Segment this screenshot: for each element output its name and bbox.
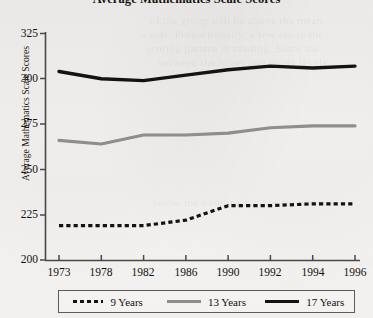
series-line-17-years — [59, 66, 355, 80]
legend-label-9-years: 9 Years — [110, 296, 142, 308]
chart-plot-area: Average Mathematics Scale Scores 325 300… — [0, 0, 373, 318]
chart-svg-canvas — [0, 0, 373, 318]
x-axis-ticks — [59, 255, 355, 260]
series-line-9-years — [59, 204, 355, 226]
legend-entry-9-years: 9 Years — [59, 296, 157, 308]
dashed-line-swatch-icon — [73, 300, 103, 303]
legend-label-17-years: 17 Years — [306, 296, 344, 308]
legend-entry-13-years: 13 Years — [157, 296, 255, 308]
black-line-swatch-icon — [265, 300, 299, 304]
legend-entry-17-years: 17 Years — [256, 296, 354, 308]
legend-label-13-years: 13 Years — [208, 296, 246, 308]
chart-legend: 9 Years 13 Years 17 Years — [58, 290, 355, 313]
series-line-13-years — [59, 126, 355, 144]
y-axis-ticks — [40, 34, 45, 261]
gray-line-swatch-icon — [167, 300, 201, 303]
